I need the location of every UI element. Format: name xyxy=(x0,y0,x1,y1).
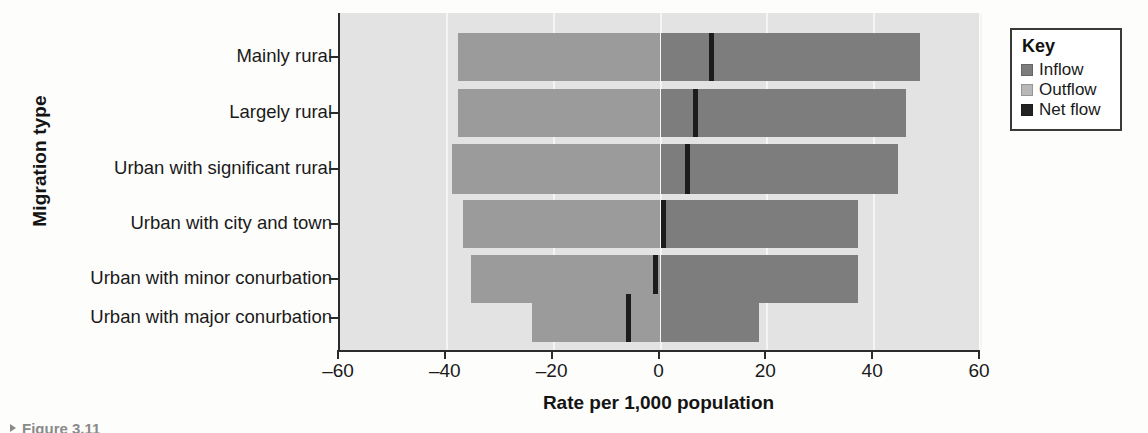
y-tick-label-0: Mainly rural xyxy=(236,47,332,66)
y-tick-0 xyxy=(329,56,338,58)
net-flow-marker xyxy=(685,144,690,194)
y-tick-label-5: Urban with major conurbation xyxy=(90,308,332,327)
x-axis-title: Rate per 1,000 population xyxy=(338,392,979,414)
bar-segment-inflow xyxy=(661,144,899,194)
x-tick-label-0: 0 xyxy=(653,360,664,382)
bar-row xyxy=(340,89,979,137)
bar-segment-outflow xyxy=(458,89,661,137)
net-flow-marker xyxy=(709,33,714,81)
plot-area xyxy=(338,13,979,350)
legend-swatch-outflow-icon xyxy=(1021,84,1033,96)
net-flow-marker xyxy=(661,200,666,248)
figure-caption: Figure 3.11 xyxy=(22,420,100,433)
x-tick-60 xyxy=(978,350,980,359)
bar-segment-outflow xyxy=(452,144,660,194)
y-tick-label-1: Largely rural xyxy=(229,103,332,122)
y-tick-1 xyxy=(329,112,338,114)
bar-segment-inflow xyxy=(661,33,920,81)
legend-item-outflow: Outflow xyxy=(1021,80,1112,100)
x-tick-label--20: –20 xyxy=(536,360,568,382)
legend-label-netflow: Net flow xyxy=(1039,100,1100,120)
y-tick-2 xyxy=(329,168,338,170)
y-tick-4 xyxy=(329,278,338,280)
legend-label-outflow: Outflow xyxy=(1039,80,1097,100)
y-tick-label-3: Urban with city and town xyxy=(130,214,332,233)
x-tick-label-20: 20 xyxy=(755,360,776,382)
gridline-60 xyxy=(980,13,982,350)
x-tick-label--40: –40 xyxy=(429,360,461,382)
bar-segment-outflow xyxy=(532,294,660,342)
y-tick-label-2: Urban with significant rural xyxy=(114,159,332,178)
x-tick-label-40: 40 xyxy=(862,360,883,382)
legend-swatch-netflow-icon xyxy=(1021,104,1033,116)
x-tick-label--60: –60 xyxy=(322,360,354,382)
bar-row xyxy=(340,144,979,194)
y-tick-3 xyxy=(329,223,338,225)
legend-label-inflow: Inflow xyxy=(1039,60,1083,80)
y-axis-title: Migration type xyxy=(29,51,51,271)
bar-segment-inflow xyxy=(661,200,859,248)
y-axis-tick-labels: Mainly rural Largely rural Urban with si… xyxy=(60,0,332,355)
x-tick-label-60: 60 xyxy=(968,360,989,382)
x-tick-0 xyxy=(658,350,660,359)
bar-segment-outflow xyxy=(463,200,661,248)
legend-title: Key xyxy=(1022,37,1112,56)
x-tick-20 xyxy=(764,350,766,359)
y-tick-label-4: Urban with minor conurbation xyxy=(90,269,332,288)
legend-item-inflow: Inflow xyxy=(1021,60,1112,80)
net-flow-marker xyxy=(626,294,631,342)
caption-marker-icon xyxy=(10,424,16,432)
bar-row xyxy=(340,200,979,248)
bar-row xyxy=(340,294,979,342)
bar-segment-inflow xyxy=(661,294,760,342)
x-tick--60 xyxy=(337,350,339,359)
bar-segment-outflow xyxy=(458,33,661,81)
x-tick-40 xyxy=(871,350,873,359)
net-flow-marker xyxy=(693,89,698,137)
x-tick--20 xyxy=(551,350,553,359)
x-tick--40 xyxy=(444,350,446,359)
chart-figure: Migration type Mainly rural Largely rura… xyxy=(0,0,1148,433)
legend-key-box: Key Inflow Outflow Net flow xyxy=(1010,28,1122,131)
bar-row xyxy=(340,33,979,81)
y-tick-5 xyxy=(329,317,338,319)
legend-swatch-inflow-icon xyxy=(1021,64,1033,76)
legend-item-netflow: Net flow xyxy=(1021,100,1112,120)
